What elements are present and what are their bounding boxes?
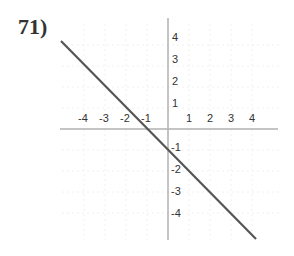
x-tick: 2 <box>207 112 213 124</box>
y-tick: 3 <box>172 53 178 65</box>
coordinate-plane: -4 -3 -2 -1 1 2 3 4 4 3 2 1 -1 -2 -3 -4 <box>0 0 294 256</box>
x-tick: -2 <box>120 112 130 124</box>
y-tick-labels: 4 3 2 1 -1 -2 -3 -4 <box>171 31 181 219</box>
y-tick: 1 <box>172 97 178 109</box>
graph-line <box>61 41 256 239</box>
y-tick: -4 <box>171 207 181 219</box>
x-tick-labels: -4 -3 -2 -1 1 2 3 4 <box>78 112 255 124</box>
x-tick: 3 <box>228 112 234 124</box>
x-tick: 4 <box>249 112 255 124</box>
y-tick: -3 <box>171 185 181 197</box>
y-tick: -2 <box>171 163 181 175</box>
y-tick: 2 <box>172 75 178 87</box>
x-tick: 1 <box>186 112 192 124</box>
x-tick: -3 <box>99 112 109 124</box>
y-tick: 4 <box>172 31 178 43</box>
y-tick: -1 <box>171 141 181 153</box>
x-tick: -4 <box>78 112 88 124</box>
